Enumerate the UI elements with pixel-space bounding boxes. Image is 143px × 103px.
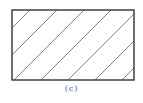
hatch-line: [14, 10, 84, 80]
figure-caption: (c): [0, 84, 143, 93]
hatch-line: [0, 10, 30, 80]
hatch-line: [95, 10, 143, 80]
diagonal-hatching: [0, 10, 143, 80]
hatch-line: [122, 10, 143, 80]
hatch-line: [68, 10, 138, 80]
hatch-line: [0, 10, 3, 80]
hatch-line: [41, 10, 111, 80]
